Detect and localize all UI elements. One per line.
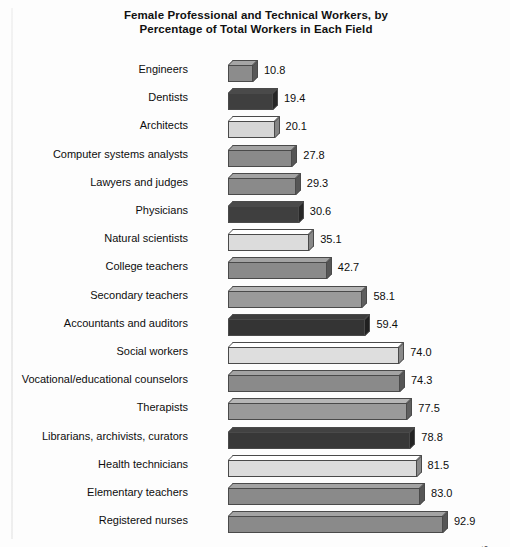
bar-value-label: 10.8 — [264, 64, 285, 76]
bar-category-label: Elementary teachers — [87, 486, 188, 499]
bar-front-face — [228, 121, 275, 138]
bar-category-label: Natural scientists — [104, 232, 188, 245]
figure-page: Female Professional and Technical Worker… — [0, 0, 510, 547]
bar-front-face — [228, 488, 420, 505]
bar-row: Therapists77.5 — [0, 393, 470, 421]
bar-side-face — [362, 286, 367, 308]
bar-top-face — [228, 398, 412, 403]
bar-category-label: Lawyers and judges — [90, 176, 188, 189]
bar-top-face — [228, 173, 301, 178]
bar-category-label: College teachers — [105, 260, 188, 273]
bar-category-label: Accountants and auditors — [64, 317, 188, 330]
bar-3d — [228, 229, 309, 251]
bar-side-face — [407, 398, 412, 420]
bar-category-label: Health technicians — [98, 458, 188, 471]
bar-3d — [228, 427, 410, 449]
bar-front-face — [228, 65, 253, 82]
bar-3d — [228, 370, 400, 392]
bar-value-label: 78.8 — [421, 431, 442, 443]
bar-value-label: 77.5 — [418, 402, 439, 414]
bar-side-face — [420, 483, 425, 505]
bar-3d — [228, 60, 253, 82]
bar-top-face — [228, 511, 448, 516]
bar-front-face — [228, 262, 327, 279]
bar-row: Accountants and auditors59.4 — [0, 309, 470, 337]
bar-side-face — [410, 427, 415, 449]
bar-3d — [228, 455, 417, 477]
bar-category-label: Computer systems analysts — [53, 148, 188, 161]
bar-row: Dentists19.4 — [0, 83, 470, 111]
bar-front-face — [228, 375, 400, 392]
source-credit: Source: In Vincent N. Parrillo, Stranger… — [481, 539, 502, 547]
bar-3d — [228, 116, 275, 138]
bar-front-face — [228, 460, 417, 477]
bar-row: College teachers42.7 — [0, 252, 470, 280]
bar-value-label: 19.4 — [284, 92, 305, 104]
bar-front-face — [228, 234, 309, 251]
bar-top-face — [228, 342, 404, 347]
bar-side-face — [327, 257, 332, 279]
bar-row: Architects20.1 — [0, 111, 470, 139]
bar-3d — [228, 201, 299, 223]
bar-row: Physicians30.6 — [0, 196, 470, 224]
bar-value-label: 30.6 — [310, 205, 331, 217]
bar-category-label: Engineers — [138, 63, 188, 76]
bar-value-label: 92.9 — [454, 515, 475, 527]
bar-side-face — [400, 370, 405, 392]
bar-front-face — [228, 347, 399, 364]
bar-3d — [228, 286, 362, 308]
bar-value-label: 74.3 — [411, 374, 432, 386]
bar-front-face — [228, 93, 273, 110]
bar-value-label: 35.1 — [320, 233, 341, 245]
bar-front-face — [228, 432, 410, 449]
bar-top-face — [228, 370, 405, 375]
bar-row: Vocational/educational counselors74.3 — [0, 365, 470, 393]
bar-3d — [228, 257, 327, 279]
bar-side-face — [275, 116, 280, 138]
bar-category-label: Dentists — [148, 91, 188, 104]
bar-row: Registered nurses92.9 — [0, 506, 470, 534]
chart-title-line-2: Percentage of Total Workers in Each Fiel… — [60, 22, 452, 36]
bar-side-face — [292, 145, 297, 167]
bar-value-label: 74.0 — [410, 346, 431, 358]
bar-row: Librarians, archivists, curators78.8 — [0, 422, 470, 450]
bar-3d — [228, 342, 399, 364]
bar-category-label: Registered nurses — [99, 514, 188, 527]
bar-chart-plot-area: Engineers10.8Dentists19.4Architects20.1C… — [0, 55, 470, 541]
bar-row: Health technicians81.5 — [0, 450, 470, 478]
bar-side-face — [399, 342, 404, 364]
bar-3d — [228, 511, 443, 533]
bar-row: Lawyers and judges29.3 — [0, 168, 470, 196]
bar-front-face — [228, 150, 292, 167]
bar-top-face — [228, 88, 278, 93]
bar-category-label: Social workers — [116, 345, 188, 358]
bar-value-label: 81.5 — [428, 459, 449, 471]
bar-top-face — [228, 427, 415, 432]
bar-side-face — [443, 511, 448, 533]
bar-top-face — [228, 229, 314, 234]
bar-top-face — [228, 455, 422, 460]
bar-front-face — [228, 291, 362, 308]
chart-title: Female Professional and Technical Worker… — [60, 8, 452, 36]
bar-front-face — [228, 206, 299, 223]
bar-side-face — [299, 201, 304, 223]
bar-top-face — [228, 201, 304, 206]
bar-top-face — [228, 286, 367, 291]
bar-row: Computer systems analysts27.8 — [0, 140, 470, 168]
bar-3d — [228, 314, 365, 336]
bar-value-label: 59.4 — [376, 318, 397, 330]
chart-title-line-1: Female Professional and Technical Worker… — [60, 8, 452, 22]
bar-side-face — [296, 173, 301, 195]
bar-front-face — [228, 319, 365, 336]
bar-value-label: 27.8 — [303, 149, 324, 161]
bar-top-face — [228, 257, 332, 262]
bar-top-face — [228, 483, 425, 488]
bar-category-label: Physicians — [135, 204, 188, 217]
bar-front-face — [228, 403, 407, 420]
bar-category-label: Secondary teachers — [90, 289, 188, 302]
bar-top-face — [228, 116, 280, 121]
bar-value-label: 29.3 — [307, 177, 328, 189]
bar-value-label: 58.1 — [373, 290, 394, 302]
bar-top-face — [228, 314, 370, 319]
bar-category-label: Architects — [140, 119, 188, 132]
